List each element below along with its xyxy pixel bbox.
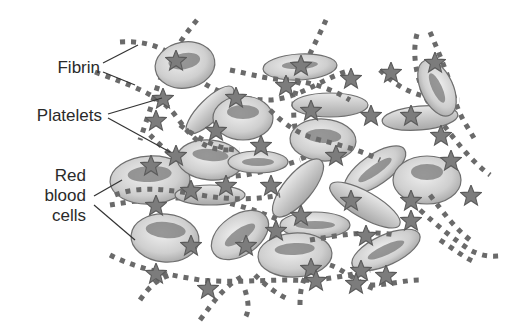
platelet (461, 185, 482, 205)
rbc-cell (289, 117, 357, 162)
rbc-label: Red blood cells (20, 166, 86, 226)
rbc-cell (292, 93, 368, 117)
rbc-cell (213, 96, 273, 140)
platelet (153, 88, 174, 108)
rbc-leader-lower (94, 205, 135, 240)
platelets-label: Platelets (10, 106, 102, 126)
platelet (198, 278, 219, 298)
platelets-leader-upper (108, 98, 162, 114)
rbc-label-line3: cells (20, 206, 86, 226)
platelet (401, 210, 422, 230)
rbc-cell (228, 151, 288, 173)
fibrin-label: Fibrin (36, 58, 100, 78)
red-blood-cells (109, 37, 464, 279)
fibrin-leader-upper (103, 45, 138, 63)
rbc-label-line1: Red (20, 166, 86, 186)
platelet (146, 110, 167, 130)
rbc-label-line2: blood (20, 186, 86, 206)
